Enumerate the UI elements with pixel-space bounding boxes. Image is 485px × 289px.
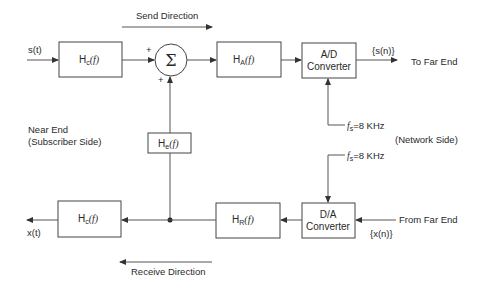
input-signal-label: s(t) — [28, 44, 42, 55]
ad-converter-block: A/D Converter — [302, 43, 356, 78]
da-line2: Converter — [306, 221, 351, 232]
xn-label: {x(n)} — [370, 228, 393, 239]
sigma-icon: Σ — [165, 51, 176, 70]
ha-block: HA(f) — [217, 42, 281, 77]
subscriber-side-label: (Subscriber Side) — [28, 136, 101, 147]
ad-line1: A/D — [321, 49, 338, 60]
echo-canceller-diagram: Send Direction s(t) Hc(f) + + Σ HA(f) A/… — [0, 0, 485, 289]
output-signal-label: x(t) — [27, 227, 41, 238]
fs-ad-label: fs=8 KHz — [347, 120, 385, 132]
ha-label: HA(f) — [233, 54, 255, 66]
hr-block: HR(f) — [216, 203, 280, 238]
near-end-label: Near End — [28, 124, 68, 135]
plus-bottom-sign: + — [158, 74, 164, 85]
hc-receive-label: Hc(f) — [78, 213, 99, 225]
fs-ad-arrow — [328, 79, 345, 125]
da-line1: D/A — [320, 209, 337, 220]
da-converter-block: D/A Converter — [302, 203, 355, 238]
hc-send-block: Hc(f) — [59, 42, 122, 77]
receive-direction-label: Receive Direction — [131, 266, 205, 277]
to-far-end-label: To Far End — [411, 56, 457, 67]
he-block: He(f) — [148, 133, 191, 153]
ad-line2: Converter — [307, 61, 352, 72]
plus-top-sign: + — [146, 44, 152, 55]
summation-node: Σ — [155, 44, 187, 76]
fs-da-arrow — [328, 155, 345, 202]
from-far-end-label: From Far End — [399, 214, 458, 225]
network-side-label: (Network Side) — [395, 134, 458, 145]
hc-send-label: Hc(f) — [79, 54, 100, 66]
fs-da-label: fs=8 KHz — [347, 150, 385, 162]
he-label: He(f) — [158, 138, 179, 150]
hc-receive-block: Hc(f) — [58, 201, 121, 237]
sn-label: {s(n)} — [372, 45, 395, 56]
send-direction-label: Send Direction — [136, 10, 198, 21]
